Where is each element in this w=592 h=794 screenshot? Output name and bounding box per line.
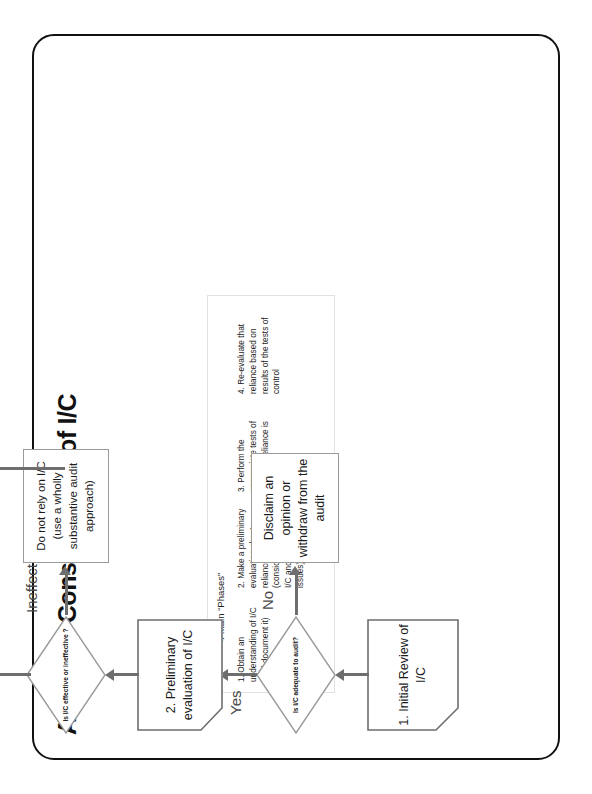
arrow-effective (0, 674, 31, 677)
arrow-preliminary-to-effective (113, 674, 139, 677)
arrowhead-ineffective (59, 566, 71, 575)
node-initial-review-label: 1. Initial Review of I/C (396, 619, 431, 731)
arrow-adequate-yes (227, 674, 257, 677)
arrow-notrelyineffective-to-prepare (0, 468, 65, 471)
node-disclaim-label: Disclaim an opinion or withdraw from the… (261, 457, 330, 559)
node-adequate-decision-label: Is I/C adequate to audit? (255, 615, 337, 735)
edge-label-adequate-no: No (259, 591, 276, 610)
page-frame: Auditor's Consideration of I/C 4 Main “P… (32, 34, 560, 760)
node-not-rely-ineffective[interactable]: Do not rely on I/C (use a wholly substan… (23, 449, 109, 563)
node-initial-review[interactable]: 1. Initial Review of I/C (367, 619, 459, 731)
node-preliminary-label: 2. Preliminary evaluation of I/C (163, 619, 198, 731)
arrow-adequate-no (295, 573, 298, 615)
arrow-initial-to-adequate (343, 674, 369, 677)
node-disclaim[interactable]: Disclaim an opinion or withdraw from the… (251, 453, 339, 563)
arrowhead-adequate-no (289, 566, 301, 575)
flowchart-canvas: Auditor's Consideration of I/C 4 Main “P… (37, 39, 555, 755)
arrow-ineffective (65, 573, 68, 615)
node-preliminary[interactable]: 2. Preliminary evaluation of I/C (137, 619, 223, 731)
node-adequate-decision[interactable]: Is I/C adequate to audit? (255, 615, 337, 735)
node-effective-decision-label: Is I/C effective or ineffective ? (25, 615, 107, 735)
edge-label-adequate-yes: Yes (227, 691, 244, 715)
legend-item-4: 4. Re-evaluate that reliance based on re… (236, 302, 283, 394)
node-effective-decision[interactable]: Is I/C effective or ineffective ? (25, 615, 107, 735)
